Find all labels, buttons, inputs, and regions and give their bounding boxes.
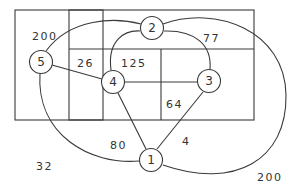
node-5: 5 — [30, 51, 53, 74]
region-label-125: 125 — [121, 57, 147, 70]
region-label-32: 32 — [36, 160, 53, 173]
region-label-200-top: 200 — [32, 30, 58, 43]
node-1-label: 1 — [147, 153, 155, 167]
node-1: 1 — [140, 149, 163, 172]
region-label-80: 80 — [110, 139, 127, 152]
node-4-label: 4 — [109, 75, 117, 89]
region-label-77: 77 — [203, 32, 220, 45]
node-4: 4 — [102, 71, 125, 94]
node-5-label: 5 — [37, 55, 45, 69]
region-label-200-bottom: 200 — [257, 171, 283, 184]
node-3-label: 3 — [205, 74, 213, 88]
graph-diagram: 1 2 3 4 5 200 77 26 125 64 80 4 32 200 — [0, 0, 300, 189]
node-2: 2 — [141, 17, 164, 40]
edge-2-1-outer-arc — [163, 18, 286, 174]
node-3: 3 — [198, 70, 221, 93]
graph-edges — [40, 18, 286, 174]
node-2-label: 2 — [148, 21, 156, 35]
region-label-64: 64 — [166, 98, 183, 111]
region-label-4: 4 — [182, 135, 191, 148]
region-label-26: 26 — [77, 57, 94, 70]
edge-5-2-arc — [46, 21, 141, 51]
